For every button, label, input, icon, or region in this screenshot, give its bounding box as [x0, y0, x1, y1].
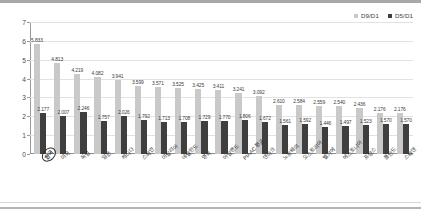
bar-value-label: 2.584 [293, 99, 305, 104]
bar-value-label: 2.176 [394, 107, 406, 112]
bar-group[interactable]: 2.5401.497 [332, 22, 352, 154]
bar-value-label: 2.559 [313, 100, 325, 105]
bar-value-label: 1.729 [199, 115, 211, 120]
legend-label-d5d1: D5/D1 [395, 12, 413, 19]
bar-value-label: 2.540 [333, 100, 345, 105]
bar-value-label: 3.241 [233, 87, 245, 92]
bar-value-label: 2.007 [57, 110, 69, 115]
y-tick-label: 5 [22, 56, 26, 63]
bar-d5[interactable]: 2.246 [80, 112, 86, 154]
bar-value-label: 3.411 [213, 84, 224, 89]
bar-value-label: 1.792 [138, 114, 150, 119]
bar-value-label: 1.757 [98, 115, 110, 120]
bar-value-label: 1.446 [320, 121, 332, 126]
bar-value-label: 2.436 [354, 102, 366, 107]
chart-legend: D9/D1 D5/D1 [354, 12, 413, 19]
bar-value-label: 2.176 [374, 107, 386, 112]
legend-swatch-d9d1 [354, 14, 358, 18]
legend-item-d9d1[interactable]: D9/D1 [354, 12, 379, 19]
bar-group[interactable]: 4.2192.246 [70, 22, 90, 154]
bar-value-label: 3.425 [192, 83, 204, 88]
bar-group[interactable]: 3.5991.792 [131, 22, 151, 154]
bar-value-label: 2.026 [118, 110, 130, 115]
bar-value-label: 2.177 [37, 107, 49, 112]
bar-value-label: 1.497 [340, 120, 352, 125]
bar-value-label: 3.599 [132, 80, 144, 85]
y-tick-label: 3 [22, 94, 26, 101]
bar-value-label: 1.770 [219, 115, 231, 120]
bar-value-label: 3.571 [152, 81, 164, 86]
bar-group[interactable]: 5.8332.177 [30, 22, 50, 154]
y-tick-label: 2 [22, 113, 26, 120]
bar-group[interactable]: 3.4111.770 [211, 22, 231, 154]
y-tick-label: 6 [22, 37, 26, 44]
bar-value-label: 3.941 [112, 74, 124, 79]
y-tick-label: 4 [22, 75, 26, 82]
bar-group[interactable]: 3.9412.026 [111, 22, 131, 154]
plot-area: 01234567 5.8332.1774.8132.0074.2192.2464… [30, 22, 413, 154]
bar-group[interactable]: 3.0921.672 [252, 22, 272, 154]
bar-value-label: 1.708 [178, 116, 190, 121]
bar-value-label: 1.592 [299, 118, 311, 123]
bar-group[interactable]: 3.5711.713 [151, 22, 171, 154]
bar-value-label: 2.246 [78, 106, 90, 111]
bar-group[interactable]: 2.5841.592 [292, 22, 312, 154]
bar-group[interactable]: 3.5251.708 [171, 22, 191, 154]
y-tick-label: 1 [22, 132, 26, 139]
bar-value-label: 1.561 [279, 119, 291, 124]
y-tick-label: 7 [22, 19, 26, 26]
bar-value-label: 1.713 [158, 116, 170, 121]
bar-group[interactable]: 2.4361.523 [353, 22, 373, 154]
bar-value-label: 3.525 [172, 82, 184, 87]
bar-group[interactable]: 3.4251.729 [191, 22, 211, 154]
bar-value-label: 4.082 [92, 71, 104, 76]
bar-value-label: 1.806 [239, 114, 251, 119]
y-tick-mark [27, 154, 30, 155]
bar-value-label: 1.570 [380, 118, 392, 123]
bar-group[interactable]: 4.8132.007 [50, 22, 70, 154]
legend-label-d9d1: D9/D1 [361, 12, 379, 19]
bar-group[interactable]: 2.1761.570 [393, 22, 413, 154]
legend-swatch-d5d1 [388, 14, 392, 18]
bar-value-label: 4.813 [51, 57, 63, 62]
bar-value-label: 1.570 [400, 118, 412, 123]
bar-value-label: 1.672 [259, 116, 271, 121]
top-divider [0, 0, 421, 3]
legend-item-d5d1[interactable]: D5/D1 [388, 12, 413, 19]
bar-groups: 5.8332.1774.8132.0074.2192.2464.0821.757… [30, 22, 413, 154]
bottom-divider [0, 207, 421, 209]
bar-group[interactable]: 2.1761.570 [373, 22, 393, 154]
bar-group[interactable]: 2.6101.561 [272, 22, 292, 154]
bar-value-label: 3.092 [253, 90, 265, 95]
y-tick-label: 0 [22, 151, 26, 158]
bar-value-label: 2.610 [273, 99, 285, 104]
x-axis-labels: 한국미국독일일본캐나다스페인이탈리아네덜란드영국아일랜드PIAAC 평균덴마크노… [30, 156, 413, 206]
chart-container: D9/D1 D5/D1 01234567 5.8332.1774.8132.00… [0, 0, 421, 209]
bar-value-label: 1.523 [360, 119, 372, 124]
bar-group[interactable]: 4.0821.757 [90, 22, 110, 154]
bar-value-label: 5.833 [31, 38, 43, 43]
bar-group[interactable]: 2.5591.446 [312, 22, 332, 154]
bar-group[interactable]: 3.2411.806 [232, 22, 252, 154]
bar-value-label: 4.219 [71, 68, 83, 73]
